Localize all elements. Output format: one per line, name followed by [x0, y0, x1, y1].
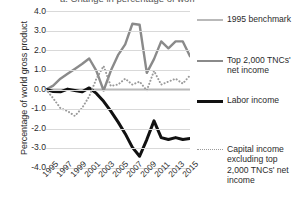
gridline-3: [46, 31, 190, 32]
legend-item-tnc-net-income: Top 2,000 TNCs' net income: [197, 55, 298, 76]
gridline-neg3: [46, 148, 190, 149]
gridline-1: [46, 70, 190, 71]
legend-swatch-dotted-icon: [197, 149, 223, 150]
y-tick-label-0: 0.0: [6, 85, 46, 94]
y-tick-label-neg2: -2.0: [6, 124, 46, 133]
chart-legend: 1995 benchmark Top 2,000 TNCs' net incom…: [197, 0, 298, 205]
legend-label-tnc-net-income: Top 2,000 TNCs' net income: [227, 55, 298, 76]
legend-swatch-line-icon: [197, 19, 223, 21]
gridline-2: [46, 50, 190, 51]
gridline-4: [46, 11, 190, 12]
legend-label-capital-income: Capital income excluding top 2,000 TNCs'…: [227, 144, 298, 186]
legend-swatch-line-icon: [197, 60, 223, 62]
y-tick-label-2: 2.0: [6, 46, 46, 55]
legend-item-benchmark: 1995 benchmark: [197, 14, 298, 24]
y-tick-label-3: 3.0: [6, 26, 46, 35]
legend-label-labor-income: Labor income: [227, 95, 279, 105]
series-line-1: [46, 24, 190, 91]
legend-swatch-line-icon: [197, 100, 223, 103]
plot-area: [46, 11, 190, 168]
y-tick-label-neg3: -3.0: [6, 143, 46, 152]
y-tick-label-neg1: -1.0: [6, 104, 46, 113]
chart-title: a. Change in percentage of world gross p…: [60, 0, 195, 4]
gridline-neg2: [46, 129, 190, 130]
legend-item-capital-income: Capital income excluding top 2,000 TNCs'…: [197, 144, 298, 186]
gridline-0: [46, 90, 190, 91]
series-line-2: [46, 88, 190, 156]
legend-label-benchmark: 1995 benchmark: [227, 14, 291, 24]
y-tick-label-4: 4.0: [6, 7, 46, 16]
legend-item-labor-income: Labor income: [197, 95, 298, 105]
chart-figure: a. Change in percentage of world gross p…: [0, 0, 298, 205]
y-tick-label-1: 1.0: [6, 65, 46, 74]
gridline-neg1: [46, 109, 190, 110]
